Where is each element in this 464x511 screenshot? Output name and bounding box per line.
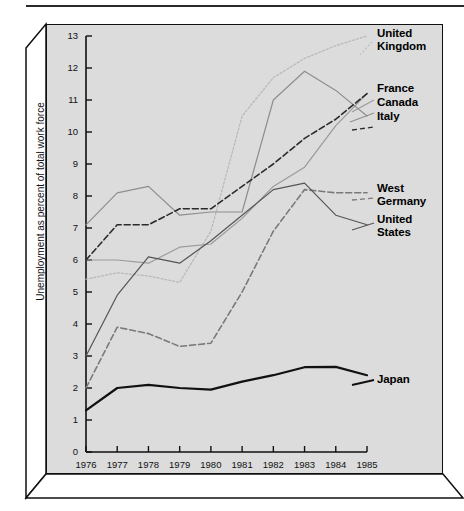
- series-label-united-kingdom: United Kingdom: [377, 27, 426, 52]
- y-tick-label: 3: [52, 351, 78, 361]
- y-tick-label: 13: [52, 31, 78, 41]
- label-leader-lines: [350, 42, 374, 385]
- series-label-japan-text: Japan: [377, 373, 410, 386]
- y-axis-ticks: [86, 36, 92, 452]
- series-label-west-germany-line1: West: [377, 182, 426, 195]
- series-line-canada: [86, 71, 367, 225]
- y-tick-label: 10: [52, 127, 78, 137]
- series-label-canada-text: Canada: [377, 96, 418, 109]
- series-line-japan: [86, 367, 367, 411]
- series-line-italy: [86, 94, 367, 260]
- y-tick-label: 2: [52, 383, 78, 393]
- x-tick-label: 1985: [350, 460, 384, 470]
- series-label-italy-text: Italy: [377, 110, 400, 123]
- axes: [86, 36, 367, 452]
- x-tick-label: 1976: [69, 460, 103, 470]
- series-line-united-kingdom: [86, 36, 367, 282]
- y-tick-label: 5: [52, 287, 78, 297]
- y-tick-label: 7: [52, 223, 78, 233]
- y-tick-label: 1: [52, 415, 78, 425]
- y-tick-label: 6: [52, 255, 78, 265]
- data-series-group: [86, 36, 367, 410]
- series-label-canada: Canada: [377, 96, 418, 109]
- series-label-france-text: France: [377, 82, 414, 95]
- x-axis-ticks: [86, 446, 367, 452]
- y-tick-label: 0: [52, 447, 78, 457]
- series-label-united-states-line1: United: [377, 213, 412, 226]
- y-axis-title: Unemployment as percent of total work fo…: [35, 102, 46, 302]
- chart-figure: Unemployment as percent of total work fo…: [0, 0, 464, 511]
- series-label-united-states-line2: States: [377, 226, 412, 239]
- leader-line-japan: [352, 380, 374, 385]
- series-label-west-germany-line2: Germany: [377, 195, 426, 208]
- series-label-italy: Italy: [377, 110, 400, 123]
- series-label-united-kingdom-line1: United: [377, 27, 426, 40]
- y-tick-label: 11: [52, 95, 78, 105]
- x-tick-label: 1984: [319, 460, 353, 470]
- leader-line-united-kingdom: [360, 42, 372, 55]
- leader-line-canada: [350, 113, 374, 122]
- series-label-japan: Japan: [377, 373, 410, 386]
- y-tick-label: 8: [52, 191, 78, 201]
- x-tick-label: 1983: [288, 460, 322, 470]
- x-tick-label: 1977: [100, 460, 134, 470]
- y-tick-label: 9: [52, 159, 78, 169]
- series-line-france: [86, 94, 367, 264]
- x-tick-label: 1981: [225, 460, 259, 470]
- series-line-united-states: [86, 183, 367, 356]
- x-tick-label: 1982: [256, 460, 290, 470]
- y-tick-label: 12: [52, 63, 78, 73]
- series-label-france: France: [377, 82, 414, 95]
- x-tick-label: 1978: [131, 460, 165, 470]
- leader-line-italy: [352, 127, 374, 130]
- x-tick-label: 1980: [194, 460, 228, 470]
- series-line-west-germany: [86, 190, 367, 388]
- series-label-united-kingdom-line2: Kingdom: [377, 40, 426, 53]
- leader-line-west-germany: [352, 198, 374, 200]
- series-label-united-states: United States: [377, 213, 412, 238]
- x-tick-label: 1979: [163, 460, 197, 470]
- y-tick-label: 4: [52, 319, 78, 329]
- series-label-west-germany: West Germany: [377, 182, 426, 207]
